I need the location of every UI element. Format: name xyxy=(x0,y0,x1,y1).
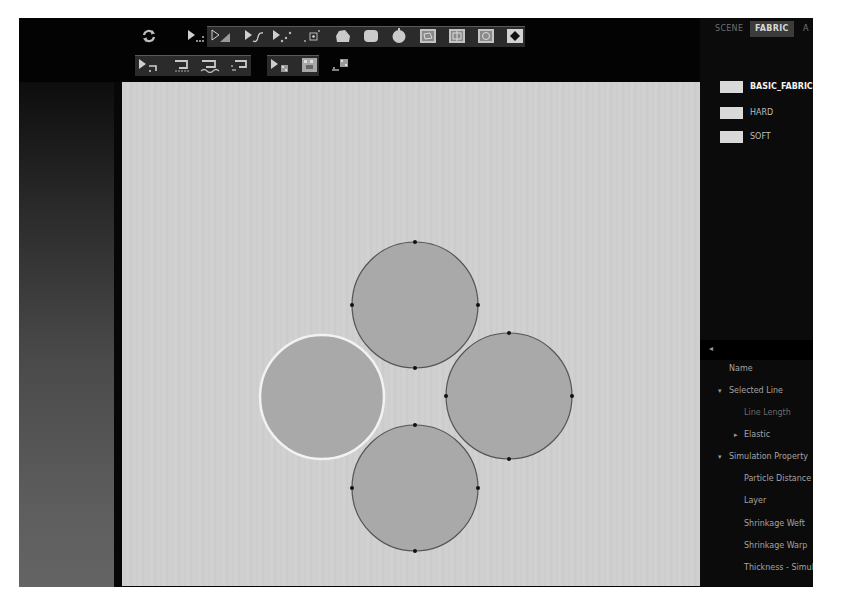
select-points-icon[interactable] xyxy=(186,28,204,44)
free-sewing-icon[interactable] xyxy=(200,57,218,73)
right-panel: SCENE FABRIC A BASIC_FABRIC HARD SOFT ◂ … xyxy=(700,18,813,586)
point-handle[interactable] xyxy=(413,366,417,370)
point-handle[interactable] xyxy=(507,331,511,335)
pattern-layer xyxy=(122,82,700,586)
fabric-label: BASIC_FABRIC xyxy=(750,81,813,93)
collapse-arrow-icon[interactable]: ◂ xyxy=(709,344,713,353)
fabric-swatch xyxy=(720,81,743,93)
property-line-length[interactable]: Line Length xyxy=(744,407,791,419)
transform-pattern-icon[interactable] xyxy=(210,28,228,44)
pattern-circle-right[interactable] xyxy=(444,331,574,461)
property-name[interactable]: Name xyxy=(729,363,753,375)
internal-circle-icon[interactable] xyxy=(477,28,495,44)
graphic-icon[interactable] xyxy=(330,57,348,73)
pattern-circle-top[interactable] xyxy=(350,240,480,370)
expand-triangle-icon[interactable]: ▾ xyxy=(718,385,722,397)
point-handle[interactable] xyxy=(350,486,354,490)
edit-texture-icon[interactable] xyxy=(269,57,287,73)
panel-tabs: SCENE FABRIC A xyxy=(700,18,813,40)
texture-pattern-icon[interactable] xyxy=(301,57,319,73)
property-simulation-property[interactable]: Simulation Property xyxy=(729,451,808,463)
point-handle[interactable] xyxy=(476,486,480,490)
edit-sewing-icon[interactable] xyxy=(137,57,155,73)
property-selected-line[interactable]: Selected Line xyxy=(729,385,783,397)
pattern-2d-canvas[interactable] xyxy=(122,82,700,586)
point-handle[interactable] xyxy=(413,423,417,427)
point-handle[interactable] xyxy=(444,394,448,398)
pattern-circle-left[interactable] xyxy=(260,335,384,459)
tab-fabric[interactable]: FABRIC xyxy=(750,21,794,37)
property-editor-header[interactable]: ◂ xyxy=(700,340,813,360)
point-handle[interactable] xyxy=(413,240,417,244)
internal-rectangle-icon[interactable] xyxy=(448,28,466,44)
left-panel xyxy=(19,82,114,587)
edit-points-icon[interactable] xyxy=(271,28,289,44)
refresh-icon[interactable] xyxy=(140,28,158,44)
point-handle[interactable] xyxy=(476,303,480,307)
property-layer[interactable]: Layer xyxy=(744,495,766,507)
segment-sewing-icon[interactable] xyxy=(173,57,191,73)
property-shrinkage-weft[interactable]: Shrinkage Weft xyxy=(744,518,805,530)
dart-icon[interactable] xyxy=(506,28,524,44)
panel-divider[interactable] xyxy=(114,82,122,587)
tab-avatar[interactable]: A xyxy=(803,21,809,37)
fabric-swatch xyxy=(720,131,743,143)
multi-sewing-icon[interactable] xyxy=(229,57,247,73)
fabric-label: HARD xyxy=(750,107,773,119)
rectangle-icon[interactable] xyxy=(362,28,380,44)
collapse-triangle-icon[interactable]: ▸ xyxy=(734,429,738,441)
fabric-swatch xyxy=(720,107,743,119)
point-handle[interactable] xyxy=(570,394,574,398)
property-elastic[interactable]: Elastic xyxy=(744,429,770,441)
fabric-label: SOFT xyxy=(750,131,771,143)
internal-polygon-icon[interactable] xyxy=(419,28,437,44)
point-handle[interactable] xyxy=(413,549,417,553)
expand-triangle-icon[interactable]: ▾ xyxy=(718,451,722,463)
pattern-circle-bottom[interactable] xyxy=(350,423,480,553)
property-shrinkage-warp[interactable]: Shrinkage Warp xyxy=(744,540,807,552)
edit-curve-icon[interactable] xyxy=(243,28,261,44)
polygon-icon[interactable] xyxy=(334,28,352,44)
add-point-icon[interactable] xyxy=(302,28,320,44)
circle-icon[interactable] xyxy=(390,28,408,44)
tab-scene[interactable]: SCENE xyxy=(715,21,743,37)
property-thickness-simulation[interactable]: Thickness - Simula xyxy=(744,562,813,574)
point-handle[interactable] xyxy=(507,457,511,461)
property-particle-distance[interactable]: Particle Distance ( xyxy=(744,473,813,485)
point-handle[interactable] xyxy=(350,303,354,307)
